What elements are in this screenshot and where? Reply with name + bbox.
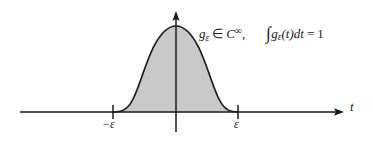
axis-label-t: t	[350, 100, 354, 113]
bump-function-figure: gε∈C∞, ∫gε(t)dt=1 −ε ε t	[0, 0, 373, 145]
integral-annotation: ∫gε(t)dt=1	[266, 25, 324, 43]
integrand-argument: (t)	[282, 26, 294, 41]
subscript-epsilon: ε	[206, 33, 210, 43]
element-of-symbol: ∈	[212, 26, 223, 41]
axis-label-pos-epsilon: ε	[234, 118, 239, 130]
integral-value: 1	[317, 26, 324, 41]
smoothness-annotation: gε∈C∞,	[199, 26, 245, 43]
infinity-exponent: ∞	[235, 25, 242, 36]
function-space-c: C	[226, 26, 235, 41]
differential-dt: dt	[294, 26, 304, 41]
trailing-comma: ,	[242, 26, 245, 41]
figure-canvas	[0, 0, 373, 145]
equals-sign: =	[307, 26, 314, 41]
axis-label-neg-epsilon: −ε	[102, 118, 115, 130]
